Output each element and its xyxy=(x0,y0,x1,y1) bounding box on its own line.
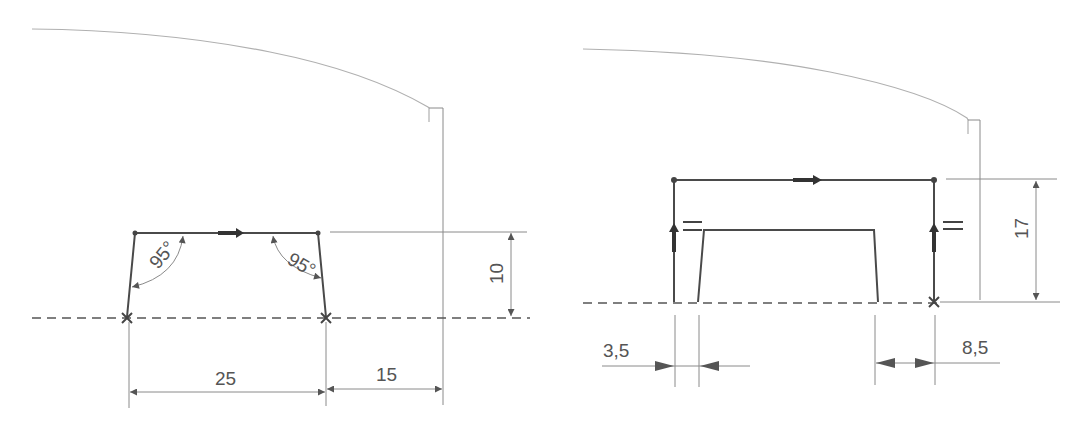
groove-profile xyxy=(698,230,878,302)
direction-arrowhead-icon xyxy=(236,228,244,238)
tool-path xyxy=(674,180,934,302)
body-outline-curve xyxy=(583,49,968,134)
direction-arrowhead-icon xyxy=(813,175,822,185)
dim-arrowhead xyxy=(876,358,895,368)
diagram-canvas: 95° 95° 10 25 15 xyxy=(0,0,1073,422)
up-arrowhead-icon xyxy=(669,223,679,232)
dim-label-right-offset: 8,5 xyxy=(962,337,988,358)
dim-label-left-offset: 3,5 xyxy=(603,340,629,361)
left-panel: 95° 95° 10 25 15 xyxy=(32,29,530,408)
dim-arrowhead xyxy=(915,358,934,368)
corner-point xyxy=(931,177,937,183)
right-panel: 17 3,5 8,5 xyxy=(583,49,1060,387)
equal-mark-right xyxy=(943,222,963,229)
equal-mark-left xyxy=(683,222,702,230)
angle-label-left: 95° xyxy=(145,237,180,273)
dim-label-offset: 15 xyxy=(376,364,397,385)
body-outline-curve xyxy=(32,29,429,122)
dim-arrowhead xyxy=(700,361,719,371)
dim-label-height: 17 xyxy=(1011,218,1032,239)
dim-label-height: 10 xyxy=(486,263,507,284)
dim-arrowhead xyxy=(655,361,674,371)
corner-point xyxy=(316,231,321,236)
corner-point xyxy=(671,177,677,183)
up-arrowhead-icon xyxy=(929,223,939,232)
corner-point xyxy=(133,231,138,236)
dim-label-width: 25 xyxy=(215,368,236,389)
